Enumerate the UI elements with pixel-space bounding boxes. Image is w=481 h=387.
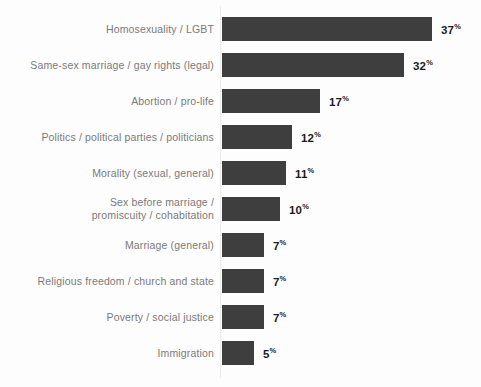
bar-row: Homosexuality / LGBT 37% <box>0 17 481 41</box>
bar-value-label: 32% <box>413 58 433 72</box>
bar <box>222 125 292 149</box>
category-label: Sex before marriage / promiscuity / coha… <box>14 196 214 222</box>
percent-sign: % <box>280 238 287 247</box>
category-label: Homosexuality / LGBT <box>14 23 214 36</box>
percent-sign: % <box>280 310 287 319</box>
bar-row: Immigration 5% <box>0 341 481 365</box>
plot-area: Homosexuality / LGBT 37% Same-sex marria… <box>0 0 481 387</box>
category-label: Abortion / pro-life <box>14 95 214 108</box>
category-label: Immigration <box>14 347 214 360</box>
bar-value-number: 7 <box>273 276 280 288</box>
bar-value-label: 12% <box>301 130 321 144</box>
bar-row: Poverty / social justice 7% <box>0 305 481 329</box>
percent-sign: % <box>314 130 321 139</box>
percent-sign: % <box>270 346 277 355</box>
bar <box>222 341 254 365</box>
bar <box>222 305 264 329</box>
bar-track: 32% <box>222 53 404 77</box>
bar-track: 7% <box>222 269 264 293</box>
bar-row: Religious freedom / church and state 7% <box>0 269 481 293</box>
bar <box>222 89 320 113</box>
bar-track: 7% <box>222 305 264 329</box>
percent-sign: % <box>454 22 461 31</box>
bar <box>222 17 432 41</box>
bar-track: 17% <box>222 89 320 113</box>
bar-value-label: 7% <box>273 310 286 324</box>
bar-value-label: 10% <box>289 202 309 216</box>
bar-row: Morality (sexual, general) 11% <box>0 161 481 185</box>
bar-track: 10% <box>222 197 280 221</box>
bar-value-number: 7 <box>273 312 280 324</box>
percent-sign: % <box>342 94 349 103</box>
bar <box>222 161 286 185</box>
bar <box>222 233 264 257</box>
percent-sign: % <box>308 166 315 175</box>
bar-value-number: 11 <box>295 168 308 180</box>
bar-value-label: 17% <box>329 94 349 108</box>
category-label: Politics / political parties / politicia… <box>14 131 214 144</box>
bar <box>222 197 280 221</box>
percent-sign: % <box>426 58 433 67</box>
bar-value-number: 17 <box>329 96 342 108</box>
bar <box>222 269 264 293</box>
bar-track: 5% <box>222 341 254 365</box>
bar-row: Marriage (general) 7% <box>0 233 481 257</box>
category-label: Morality (sexual, general) <box>14 167 214 180</box>
bar-row: Politics / political parties / politicia… <box>0 125 481 149</box>
bar-value-label: 5% <box>263 346 276 360</box>
bar-value-label: 7% <box>273 274 286 288</box>
bar <box>222 53 404 77</box>
bar-value-number: 10 <box>289 204 302 216</box>
bar-track: 37% <box>222 17 432 41</box>
bar-track: 12% <box>222 125 292 149</box>
bar-value-label: 7% <box>273 238 286 252</box>
bar-chart: Homosexuality / LGBT 37% Same-sex marria… <box>0 0 481 387</box>
bar-value-number: 32 <box>413 60 426 72</box>
bar-track: 11% <box>222 161 286 185</box>
bar-track: 7% <box>222 233 264 257</box>
bar-value-number: 5 <box>263 348 270 360</box>
percent-sign: % <box>280 274 287 283</box>
category-label: Same-sex marriage / gay rights (legal) <box>14 59 214 72</box>
bar-value-number: 37 <box>441 24 454 36</box>
bar-rows: Homosexuality / LGBT 37% Same-sex marria… <box>0 17 481 377</box>
bar-row: Sex before marriage / promiscuity / coha… <box>0 197 481 221</box>
bar-value-number: 12 <box>301 132 314 144</box>
bar-value-label: 11% <box>295 166 314 180</box>
bar-row: Same-sex marriage / gay rights (legal) 3… <box>0 53 481 77</box>
bar-row: Abortion / pro-life 17% <box>0 89 481 113</box>
bar-value-number: 7 <box>273 240 280 252</box>
percent-sign: % <box>302 202 309 211</box>
category-label: Marriage (general) <box>14 239 214 252</box>
category-label: Religious freedom / church and state <box>14 275 214 288</box>
bar-value-label: 37% <box>441 22 461 36</box>
category-label: Poverty / social justice <box>14 311 214 324</box>
